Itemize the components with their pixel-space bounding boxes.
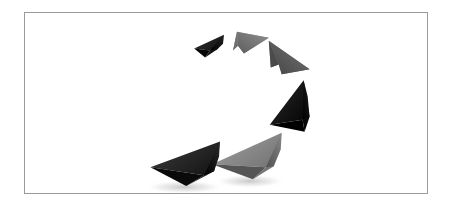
paper-airplane-scene (25, 13, 427, 193)
paper-airplane-2 (233, 32, 269, 54)
screenshot-canvas: Paper airplanes arranged in an arc six f… (0, 0, 454, 209)
paper-airplane-3 (269, 41, 310, 75)
paper-airplane-4 (270, 80, 310, 131)
paper-airplane-1 (194, 35, 224, 58)
plane-2-lower-wing (237, 32, 269, 54)
scene-svg (25, 13, 427, 193)
paper-airplane-6 (144, 142, 224, 193)
photo-frame: Paper airplanes arranged in an arc six f… (24, 12, 428, 194)
plane-4-lower-wing (303, 80, 310, 120)
paper-airplane-5 (212, 133, 286, 188)
